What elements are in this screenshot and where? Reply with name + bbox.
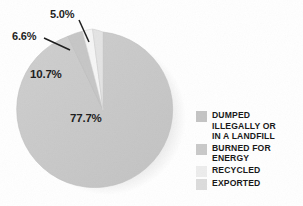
legend-swatch-icon — [196, 111, 207, 122]
legend-item-recycled: RECYCLED — [196, 165, 303, 177]
legend-item-burned-for-energy: BURNED FOR ENERGY — [196, 143, 303, 164]
slice-value-exported: 5.0% — [50, 8, 74, 20]
legend-label: RECYCLED — [212, 165, 260, 176]
legend-label: EXPORTED — [212, 178, 260, 189]
legend-item-dumped-illegally: DUMPED ILLEGALLY OR IN A LANDFILL — [196, 110, 303, 142]
legend-label-line: BURNED FOR — [212, 143, 271, 154]
legend-label-line: EXPORTED — [212, 178, 260, 189]
legend-label-line: IN A LANDFILL — [212, 131, 276, 142]
slice-value-recycled: 6.6% — [12, 30, 36, 42]
slice-value-burned-for-energy: 10.7% — [30, 68, 62, 80]
slice-value-dumped-illegally: 77.7% — [70, 112, 102, 124]
legend-swatch-icon — [196, 144, 207, 155]
legend-item-exported: EXPORTED — [196, 178, 303, 190]
legend-label: DUMPED ILLEGALLY OR IN A LANDFILL — [212, 110, 276, 142]
legend-swatch-icon — [196, 166, 207, 177]
chart-legend: DUMPED ILLEGALLY OR IN A LANDFILL BURNED… — [196, 110, 303, 191]
legend-label: BURNED FOR ENERGY — [212, 143, 271, 164]
legend-label-line: RECYCLED — [212, 165, 260, 176]
legend-label-line: ENERGY — [212, 153, 271, 164]
legend-label-line: DUMPED — [212, 110, 276, 121]
pie-chart: 77.7% 10.7% 6.6% 5.0% DUMPED ILLEGALLY O… — [0, 0, 303, 206]
legend-swatch-icon — [196, 179, 207, 190]
legend-label-line: ILLEGALLY OR — [212, 121, 276, 132]
